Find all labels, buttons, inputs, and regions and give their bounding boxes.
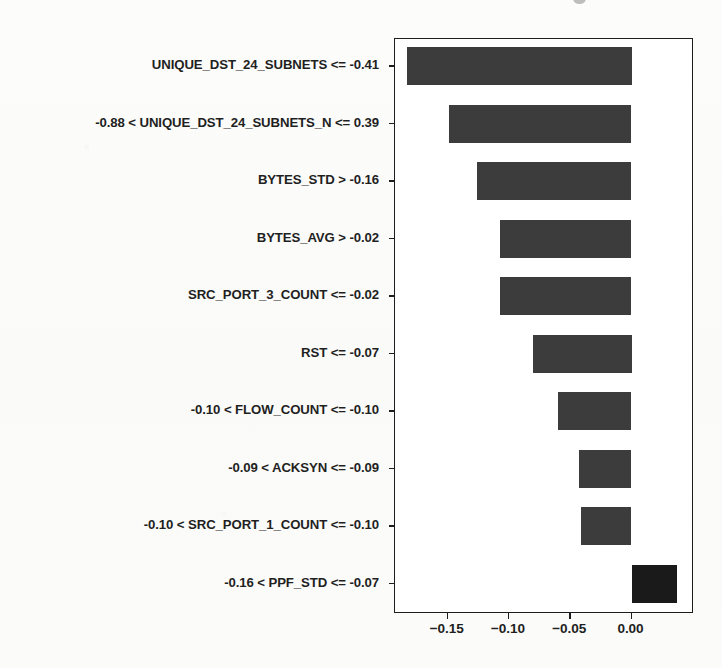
y-axis-tick-mark (389, 353, 394, 354)
y-axis-tick-marks (394, 38, 404, 613)
y-axis-tick-mark (389, 525, 394, 526)
x-axis-tick-mark (569, 613, 570, 619)
x-axis-tick-mark (631, 613, 632, 619)
x-axis-tick-labels: −0.15−0.10−0.050.00 (394, 621, 693, 643)
y-axis-tick-mark (389, 583, 394, 584)
bar (558, 392, 632, 430)
y-axis-tick-mark (389, 123, 394, 124)
y-axis-tick-mark (389, 295, 394, 296)
bar (407, 47, 631, 85)
bar (500, 220, 631, 258)
x-axis-tick-mark (447, 613, 448, 619)
y-axis-tick-mark (389, 65, 394, 66)
bar (500, 277, 631, 315)
y-axis-tick-label: UNIQUE_DST_24_SUBNETS <= -0.41 (152, 46, 379, 84)
y-axis-tick-labels: UNIQUE_DST_24_SUBNETS <= -0.41-0.88 < UN… (0, 38, 388, 613)
y-axis-tick-label: -0.10 < FLOW_COUNT <= -0.10 (191, 391, 379, 429)
y-axis-tick-mark (389, 468, 394, 469)
plot-area (394, 38, 693, 613)
x-axis-tick-label: −0.05 (552, 621, 586, 636)
y-axis-tick-label: -0.09 < ACKSYN <= -0.09 (228, 449, 379, 487)
bar (533, 335, 631, 373)
y-axis-tick-label: BYTES_STD > -0.16 (258, 161, 379, 199)
clipped-title-glyph (573, 0, 586, 4)
y-axis-tick-label: SRC_PORT_3_COUNT <= -0.02 (188, 276, 379, 314)
x-axis-tick-marks (394, 613, 693, 620)
bar (449, 105, 632, 143)
y-axis-tick-label: -0.16 < PPF_STD <= -0.07 (224, 564, 379, 602)
bar (581, 507, 631, 545)
bar (477, 162, 631, 200)
y-axis-tick-mark (389, 410, 394, 411)
x-axis-tick-label: 0.00 (617, 621, 643, 636)
y-axis-tick-label: -0.88 < UNIQUE_DST_24_SUBNETS_N <= 0.39 (95, 104, 379, 142)
y-axis-tick-label: RST <= -0.07 (301, 334, 379, 372)
y-axis-tick-mark (389, 180, 394, 181)
x-axis-tick-label: −0.15 (430, 621, 464, 636)
x-axis-tick-mark (508, 613, 509, 619)
bar (579, 450, 632, 488)
y-axis-tick-mark (389, 238, 394, 239)
y-axis-tick-label: BYTES_AVG > -0.02 (257, 219, 379, 257)
chart-figure: UNIQUE_DST_24_SUBNETS <= -0.41-0.88 < UN… (0, 0, 722, 668)
bars-layer (395, 39, 692, 612)
y-axis-tick-label: -0.10 < SRC_PORT_1_COUNT <= -0.10 (144, 506, 379, 544)
x-axis-tick-label: −0.10 (491, 621, 525, 636)
bar (632, 565, 677, 603)
